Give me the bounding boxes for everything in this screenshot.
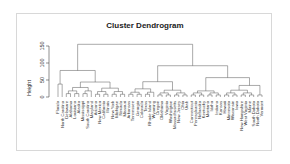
leaf-label: Vermont	[259, 100, 264, 116]
y-axis-label: Height	[26, 80, 32, 96]
leaf-labels: FloridaNorth CarolinaDelawareAlabamaLoui…	[55, 100, 264, 131]
y-tick-0: 0	[39, 95, 45, 98]
y-axis	[46, 46, 49, 97]
y-tick-50: 50	[39, 77, 45, 83]
dendrogram-plot: 0 50 100 150 Height FloridaNorth Carolin…	[0, 0, 290, 164]
dendrogram-branches	[58, 44, 262, 97]
y-tick-100: 100	[39, 58, 45, 67]
y-tick-150: 150	[39, 41, 45, 50]
